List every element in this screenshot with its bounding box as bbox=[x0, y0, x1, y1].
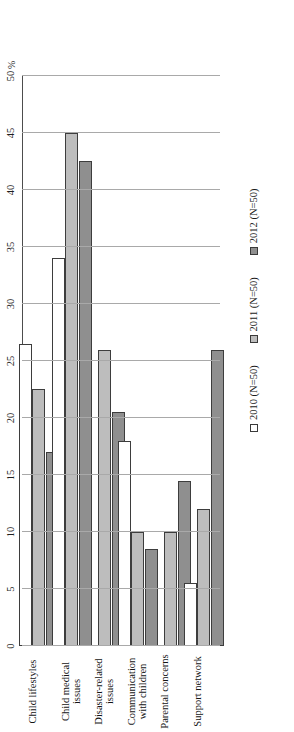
bar bbox=[32, 390, 45, 647]
gridline bbox=[22, 588, 220, 589]
x-tick-label: 50 bbox=[5, 71, 16, 82]
category-label: Parental concerns bbox=[159, 646, 170, 732]
bar bbox=[118, 441, 131, 646]
light-gray-square-swatch bbox=[250, 335, 258, 343]
bar-group: Communication with children bbox=[121, 76, 154, 646]
bar bbox=[184, 583, 197, 646]
x-tick-label: 15 bbox=[5, 470, 16, 481]
legend-item: 2010 (N=50) bbox=[248, 365, 259, 432]
x-tick-label: 10 bbox=[5, 527, 16, 538]
bar bbox=[19, 344, 32, 646]
category-label: Child medical issues bbox=[60, 646, 82, 732]
x-tick-label: 40 bbox=[5, 185, 16, 196]
dark-gray-square-swatch bbox=[250, 247, 258, 255]
bar-groups: Child lifestylesChild medical issuesDisa… bbox=[22, 76, 220, 646]
x-tick-label: 0 bbox=[5, 643, 16, 648]
x-tick-label: 20 bbox=[5, 413, 16, 424]
category-label: Disaster-related issues bbox=[93, 646, 115, 732]
gridline bbox=[22, 417, 220, 418]
legend-label: 2012 (N=50) bbox=[248, 189, 259, 244]
gridline bbox=[22, 531, 220, 532]
legend-item: 2012 (N=50) bbox=[248, 189, 259, 256]
bar bbox=[211, 350, 224, 646]
category-label: Communication with children bbox=[126, 646, 148, 732]
bar bbox=[197, 509, 210, 646]
category-label: Child lifestyles bbox=[27, 646, 38, 732]
bar bbox=[164, 532, 177, 646]
bar bbox=[65, 133, 78, 646]
bar-group: Support network bbox=[187, 76, 220, 646]
x-tick-label: 5 bbox=[5, 586, 16, 591]
category-label: Support network bbox=[192, 646, 203, 732]
gridline bbox=[22, 474, 220, 475]
plot-area: 05101520253035404550 Child lifestylesChi… bbox=[22, 76, 220, 646]
x-tick-label: 30 bbox=[5, 299, 16, 310]
legend-item: 2011 (N=50) bbox=[248, 277, 259, 343]
bar-group: Child lifestyles bbox=[22, 76, 55, 646]
bar bbox=[98, 350, 111, 646]
x-tick-label: 45 bbox=[5, 128, 16, 139]
gridline bbox=[22, 303, 220, 304]
gridline bbox=[22, 75, 220, 76]
white-square-swatch bbox=[250, 424, 258, 432]
chart-legend: 2010 (N=50)2011 (N=50)2012 (N=50) bbox=[248, 189, 259, 432]
legend-label: 2011 (N=50) bbox=[248, 277, 259, 331]
axis-unit-label: % bbox=[6, 61, 17, 69]
gridline bbox=[22, 360, 220, 361]
gridline bbox=[22, 645, 220, 646]
gridline bbox=[22, 246, 220, 247]
x-tick-label: 35 bbox=[5, 242, 16, 253]
bar-group: Disaster-related issues bbox=[88, 76, 121, 646]
x-tick-label: 25 bbox=[5, 356, 16, 367]
figure-wrapper: 05101520253035404550 Child lifestylesChi… bbox=[0, 0, 294, 732]
gridline bbox=[22, 132, 220, 133]
bar bbox=[131, 532, 144, 646]
legend-label: 2010 (N=50) bbox=[248, 365, 259, 420]
gridline bbox=[22, 189, 220, 190]
bar-group: Parental concerns bbox=[154, 76, 187, 646]
bar-group: Child medical issues bbox=[55, 76, 88, 646]
bar-chart-figure: 05101520253035404550 Child lifestylesChi… bbox=[0, 0, 294, 732]
